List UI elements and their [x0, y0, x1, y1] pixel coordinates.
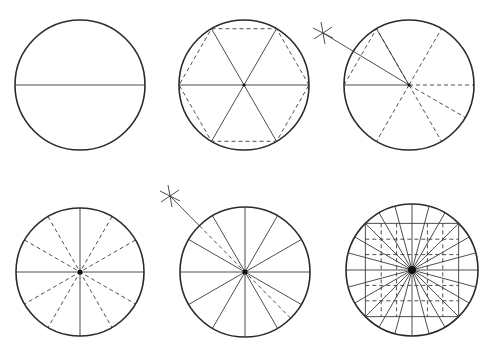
figure-step-6 — [346, 204, 478, 336]
dashed-radius — [409, 85, 465, 118]
figure-step-1 — [15, 20, 145, 150]
bisector-line — [170, 196, 199, 226]
figure-step-4 — [16, 208, 144, 336]
dashed-radius — [377, 85, 410, 141]
bisector-line — [323, 33, 409, 85]
arc-intersection-mark — [313, 22, 333, 44]
figure-step-2 — [179, 20, 309, 150]
dashed-radius — [409, 29, 442, 85]
circle-division-diagram — [0, 0, 492, 352]
center-point — [243, 270, 248, 275]
center-point — [408, 266, 416, 274]
dashed-radius — [409, 85, 442, 141]
center-point — [78, 270, 83, 275]
center-point — [408, 84, 411, 87]
figure-step-5 — [160, 185, 310, 337]
figure-step-3 — [313, 20, 474, 150]
dashed-chord — [344, 29, 377, 85]
diagram-canvas — [0, 0, 492, 352]
center-point — [243, 84, 246, 87]
